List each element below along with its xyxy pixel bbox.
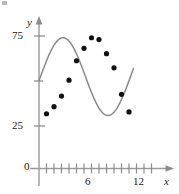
- y-tick-label-75: 75: [12, 30, 23, 41]
- data-point: [66, 78, 71, 83]
- x-axis-title: x: [164, 176, 169, 187]
- data-point: [51, 104, 56, 109]
- data-point: [96, 37, 101, 42]
- y-axis: [36, 16, 43, 186]
- scatter-plot-figure: y x 75 25 0 6 12: [0, 0, 179, 194]
- x-axis: [30, 165, 174, 172]
- x-tick-label-12: 12: [133, 176, 144, 187]
- data-point: [119, 92, 124, 97]
- data-point: [81, 46, 86, 51]
- y-tick-label-25: 25: [12, 120, 23, 131]
- data-point: [89, 35, 94, 40]
- data-point: [74, 58, 79, 63]
- data-point: [104, 51, 109, 56]
- y-tick-label-0: 0: [24, 161, 30, 172]
- y-axis-title: y: [27, 17, 32, 28]
- x-tick-label-6: 6: [85, 176, 91, 187]
- data-point: [111, 65, 116, 70]
- data-point: [126, 109, 131, 114]
- data-point: [59, 93, 64, 98]
- data-point: [44, 111, 49, 116]
